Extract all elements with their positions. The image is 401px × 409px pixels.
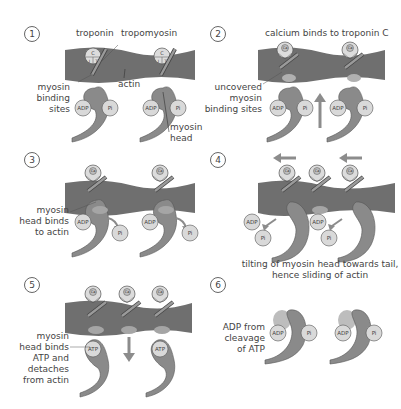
svg-text:ADP: ADP [144,219,156,225]
adp-cleavage-label: ADP from cleavage of ATP [215,322,265,355]
panel-6: ADP Pi ADP Pi [265,310,382,364]
step-number-6: 6 [210,277,226,293]
step-number-3: 3 [24,152,40,168]
calcium-binds-label: calcium binds to troponin C [265,28,389,39]
myosin-head-label: myosin head [170,122,203,144]
left-arrow-icon [339,153,362,163]
troponin-label: troponin [76,28,114,39]
binding-sites-label: myosin binding sites [30,82,70,115]
svg-text:Pi: Pi [372,330,377,336]
svg-text:Pi: Pi [363,105,368,111]
step-number-5: 5 [24,277,40,293]
svg-text:ADP: ADP [272,105,284,111]
head-binds-actin-label: myosin head binds to actin [15,205,69,238]
step-number-2: 2 [210,26,226,42]
panel-2: ADP Pi ADP Pi [258,42,385,142]
svg-text:Pi: Pi [307,330,312,336]
svg-text:Pi: Pi [118,230,123,236]
svg-text:ADP: ADP [337,330,349,336]
uncovered-sites-label: uncovered myosin binding sites [200,82,262,115]
svg-text:Pi: Pi [327,235,332,241]
actin-label: actin [118,79,140,90]
svg-text:Pi: Pi [176,105,181,111]
panel-5: ATP ATP [65,286,192,397]
binds-atp-label: myosin head binds ATP and detaches from … [15,331,69,386]
tilting-caption: tilting of myosin head towards tail, hen… [240,259,400,281]
svg-text:ADP: ADP [77,105,89,111]
svg-text:ADP: ADP [272,330,284,336]
panel-4: ADP Pi ADP Pi [244,153,395,262]
svg-text:ADP: ADP [77,219,89,225]
svg-text:ADP: ADP [246,219,258,225]
svg-text:Pi: Pi [108,105,113,111]
svg-text:ADP: ADP [145,105,157,111]
svg-text:Pi: Pi [261,235,266,241]
up-arrow-icon [314,93,326,128]
svg-text:ADP: ADP [332,105,344,111]
down-arrow-icon [123,337,135,362]
tropomyosin-label: tropomyosin [121,28,177,39]
step-number-1: 1 [24,26,40,42]
step-number-4: 4 [210,152,226,168]
svg-text:ADP: ADP [312,219,324,225]
svg-text:Pi: Pi [188,230,193,236]
svg-text:ATP: ATP [155,346,166,352]
left-arrow-icon [273,153,296,163]
panel-3: ADP Pi ADP Pi [65,165,198,257]
svg-text:Pi: Pi [303,105,308,111]
